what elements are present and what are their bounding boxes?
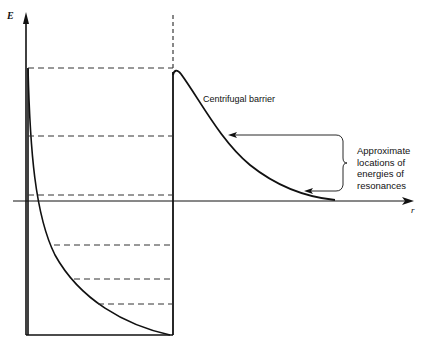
e-axis-label: E xyxy=(7,10,14,21)
barrier-label: Centrifugal barrier xyxy=(203,94,275,104)
r-axis xyxy=(13,197,414,205)
potential-well xyxy=(26,14,173,335)
curly-brace-icon xyxy=(336,135,347,191)
r-axis-label: r xyxy=(411,205,415,215)
e-axis-arrow-icon xyxy=(23,12,29,24)
resonance-note: Approximate locations of energies of res… xyxy=(357,145,426,191)
energy-levels xyxy=(28,68,173,304)
